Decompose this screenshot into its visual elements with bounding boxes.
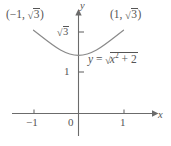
sqrt-glyph-left: √3: [28, 8, 40, 21]
equation-equals: =: [93, 53, 105, 65]
axis-label-y: y: [80, 1, 85, 12]
point-label-left-suffix: ): [40, 8, 44, 20]
point-label-right: (1, √3): [110, 8, 141, 21]
point-label-left: (−1, √3): [6, 8, 44, 21]
radical-sign-left: √: [28, 10, 34, 21]
radicand-ytick: 3: [63, 26, 69, 38]
equation-radicand-rest: + 2: [119, 53, 137, 65]
x-tick-label-1: 1: [120, 117, 126, 128]
x-tick-label-0: 0: [68, 117, 74, 128]
equation-label: y = √x2 + 2: [88, 52, 138, 65]
radical-sign-ytick: √: [57, 27, 63, 38]
y-tick-label-sqrt3: √3: [57, 26, 69, 38]
y-tick-label-1: 1: [64, 66, 70, 77]
sqrt-glyph-right: √3: [125, 8, 137, 21]
point-label-right-suffix: ): [138, 8, 142, 20]
sqrt-glyph-ytick: √3: [57, 26, 69, 38]
axis-label-x: x: [158, 110, 163, 121]
point-label-left-prefix: (−1,: [6, 8, 28, 20]
equation-radicand: x2 + 2: [110, 52, 138, 65]
point-label-right-prefix: (1,: [110, 8, 125, 20]
y-axis-ticks: [79, 32, 85, 72]
radical-sign-equation: √: [105, 55, 111, 66]
radical-sign-right: √: [125, 10, 131, 21]
graph-figure: (−1, √3) (1, √3) y = √x2 + 2 y x √3 1 −1…: [0, 0, 171, 146]
radicand-right: 3: [131, 8, 138, 21]
x-tick-label-neg1: −1: [26, 117, 38, 128]
